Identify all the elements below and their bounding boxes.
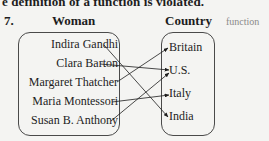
mapping-arrows	[0, 0, 269, 141]
arrow-maria-to-italy	[112, 95, 169, 102]
arrow-indira-to-india	[104, 45, 168, 117]
arrow-clara-to-us	[100, 64, 169, 70]
arrow-margaret-to-britain	[117, 48, 168, 82]
